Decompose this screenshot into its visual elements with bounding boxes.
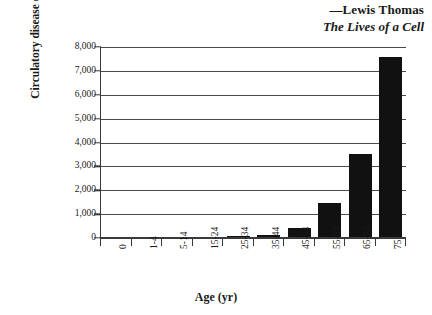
- x-tick-mark: [131, 238, 132, 246]
- y-tick-label: 6,000: [75, 90, 96, 100]
- y-tick-label: 4,000: [75, 138, 96, 148]
- x-tick-mark: [253, 238, 254, 246]
- y-tick-label: 7,000: [75, 66, 96, 76]
- x-category-label: 55-64: [333, 227, 343, 249]
- x-tick-mark: [314, 238, 315, 246]
- x-category-label: 15-24: [211, 227, 221, 249]
- x-tick-mark: [375, 238, 376, 246]
- plot-area: [100, 47, 406, 238]
- x-category-label: 5-14: [180, 232, 190, 249]
- x-category-label: 65-74: [363, 227, 373, 249]
- y-tick-label: 3,000: [75, 162, 96, 172]
- x-axis-label: Age (yr): [0, 290, 432, 305]
- y-tick-label: 8,000: [75, 42, 96, 52]
- bar-chart: Circulatory disease deaths (annually/100…: [0, 0, 432, 315]
- x-tick-mark: [161, 238, 162, 246]
- x-tick-mark: [283, 238, 284, 246]
- x-category-label: 45-54: [302, 227, 312, 249]
- x-category-label: 1-4: [150, 236, 160, 249]
- gridline: [101, 95, 406, 96]
- x-tick-mark: [192, 238, 193, 246]
- x-tick-mark: [222, 238, 223, 246]
- gridline: [101, 47, 406, 48]
- x-category-label: 25-34: [241, 227, 251, 249]
- y-tick-label: 1,000: [75, 209, 96, 219]
- x-category-label: 35-44: [272, 227, 282, 249]
- x-tick-mark: [344, 238, 345, 246]
- y-tick-label: 2,000: [75, 186, 96, 196]
- x-tick-mark: [405, 238, 406, 246]
- gridline: [101, 143, 406, 144]
- bar: [349, 154, 372, 238]
- x-tick-mark: [100, 238, 101, 246]
- gridline: [101, 71, 406, 72]
- x-category-label: 0: [119, 244, 129, 249]
- x-category-label: 75+: [394, 234, 404, 249]
- y-axis-label: Circulatory disease deaths (annually/100…: [14, 0, 58, 88]
- bar: [379, 57, 402, 238]
- y-tick-label: 5,000: [75, 114, 96, 124]
- gridline: [101, 119, 406, 120]
- y-axis-label-line1: Circulatory disease deaths: [29, 0, 42, 99]
